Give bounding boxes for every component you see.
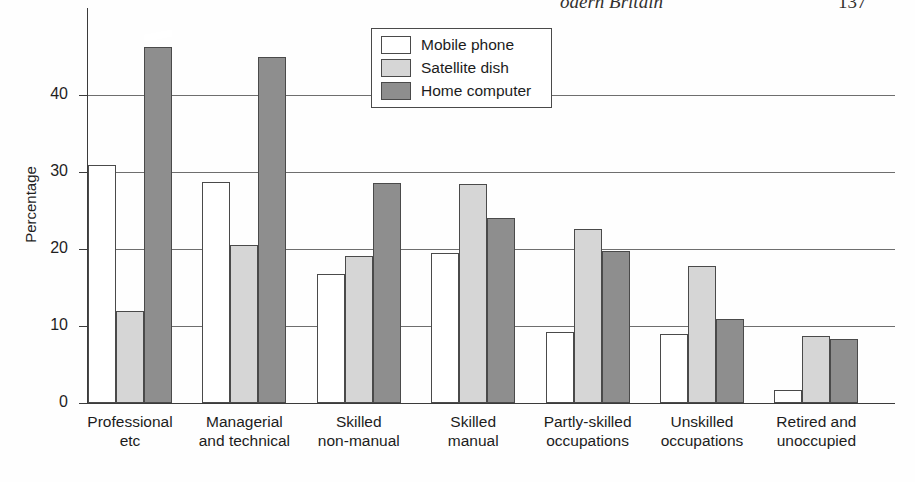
bar-home[interactable]	[258, 57, 286, 403]
bar-satellite[interactable]	[802, 336, 830, 403]
y-tick-mark-10	[79, 326, 88, 327]
bar-mobile[interactable]	[431, 253, 459, 403]
legend-item-label: Satellite dish	[421, 57, 509, 79]
y-tick-label-0: 0	[34, 393, 68, 411]
bar-chart: Percentage 010203040 ProfessionaletcMana…	[0, 0, 915, 482]
y-tick-mark-40	[79, 95, 88, 96]
y-tick-label-10: 10	[34, 316, 68, 334]
y-tick-label-30: 30	[34, 162, 68, 180]
bar-home[interactable]	[716, 319, 744, 403]
bar-group	[88, 8, 172, 403]
y-tick-mark-20	[79, 249, 88, 250]
category-label-line: Retired and	[741, 412, 891, 431]
legend-swatch-satellite-dish	[381, 59, 411, 77]
bar-satellite[interactable]	[116, 311, 144, 403]
bar-satellite[interactable]	[345, 256, 373, 403]
bar-mobile[interactable]	[660, 334, 688, 403]
bar-mobile[interactable]	[202, 182, 230, 403]
legend-item-label: Home computer	[421, 80, 531, 102]
bar-home[interactable]	[602, 251, 630, 403]
y-tick-mark-0	[79, 403, 88, 404]
bar-mobile[interactable]	[317, 274, 345, 403]
bar-home[interactable]	[373, 183, 401, 403]
bar-mobile[interactable]	[88, 165, 116, 403]
chart-legend: Mobile phoneSatellite dishHome computer	[371, 28, 552, 108]
bar-group	[202, 8, 286, 403]
bar-group	[774, 8, 858, 403]
bar-home[interactable]	[830, 339, 858, 403]
bar-satellite[interactable]	[688, 266, 716, 403]
bar-mobile[interactable]	[546, 332, 574, 403]
y-tick-label-20: 20	[34, 239, 68, 257]
x-axis-line	[87, 403, 895, 404]
category-label: Retired andunoccupied	[741, 412, 891, 450]
bar-satellite[interactable]	[459, 184, 487, 403]
bar-satellite[interactable]	[574, 229, 602, 403]
y-tick-label-40: 40	[34, 85, 68, 103]
bar-home[interactable]	[144, 47, 172, 403]
legend-swatch-mobile-phone	[381, 36, 411, 54]
y-tick-mark-30	[79, 172, 88, 173]
category-label-line: unoccupied	[741, 431, 891, 450]
y-axis-ticks: 010203040	[28, 0, 68, 482]
bar-group	[660, 8, 744, 403]
legend-swatch-home-computer	[381, 82, 411, 100]
bar-mobile[interactable]	[774, 390, 802, 403]
bar-group	[546, 8, 630, 403]
bar-home[interactable]	[487, 218, 515, 403]
legend-item-label: Mobile phone	[421, 34, 514, 56]
bar-satellite[interactable]	[230, 245, 258, 403]
